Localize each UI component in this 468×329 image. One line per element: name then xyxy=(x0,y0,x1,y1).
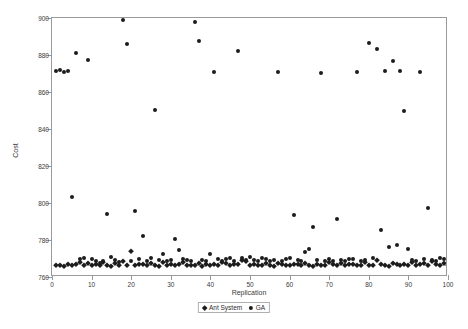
x-axis-title: Replication xyxy=(51,289,447,296)
data-point-ga xyxy=(105,212,109,216)
data-point-ga xyxy=(303,250,307,254)
data-point-ant-system xyxy=(156,263,161,268)
data-point-ga xyxy=(189,259,193,263)
data-point-ga xyxy=(204,259,208,263)
data-point-ga xyxy=(288,256,292,260)
scatter-chart-figure: Cost 760780800820840860880900 0102030405… xyxy=(0,0,468,329)
data-point-ga xyxy=(256,259,260,263)
data-point-ant-system xyxy=(374,257,379,262)
data-point-ga xyxy=(331,259,335,263)
data-point-ga xyxy=(272,258,276,262)
data-point-ga xyxy=(177,248,181,252)
data-point-ga xyxy=(117,260,121,264)
x-tick-mark xyxy=(290,275,291,280)
data-point-ga xyxy=(101,259,105,263)
data-point-ga xyxy=(74,51,78,55)
x-tick-label: 10 xyxy=(88,281,95,288)
data-point-ga xyxy=(319,71,323,75)
data-point-ant-system xyxy=(426,263,431,268)
x-tick-mark xyxy=(171,275,172,280)
data-point-ga xyxy=(193,20,197,24)
x-tick-label: 70 xyxy=(326,281,333,288)
data-point-ga xyxy=(391,59,395,63)
data-point-ga xyxy=(145,259,149,263)
data-point-ga xyxy=(86,58,90,62)
data-point-ant-system xyxy=(236,261,241,266)
data-point-ga xyxy=(414,259,418,263)
x-tick-mark xyxy=(131,275,132,280)
data-point-ga xyxy=(387,245,391,249)
legend-label: GA xyxy=(256,304,265,311)
data-point-ant-system xyxy=(445,262,446,267)
data-point-ga xyxy=(129,259,133,263)
x-tick-mark xyxy=(329,275,330,280)
data-point-ga xyxy=(398,69,402,73)
data-point-ga xyxy=(355,70,359,74)
data-point-ga xyxy=(418,70,422,74)
x-tick-label: 100 xyxy=(443,281,454,288)
data-point-ga xyxy=(161,252,165,256)
data-point-ga xyxy=(375,47,379,51)
data-point-ga xyxy=(383,69,387,73)
x-tick-mark xyxy=(369,275,370,280)
data-point-ga xyxy=(335,217,339,221)
data-point-ga xyxy=(307,247,311,251)
x-tick-label: 0 xyxy=(50,281,54,288)
x-tick-mark xyxy=(92,275,93,280)
data-point-ga xyxy=(133,209,137,213)
data-point-ant-system xyxy=(129,248,134,253)
x-tick-label: 50 xyxy=(246,281,253,288)
data-point-ga xyxy=(315,258,319,262)
data-point-ga xyxy=(406,247,410,251)
legend-item-ga[interactable]: GA xyxy=(249,304,265,311)
x-tick-mark xyxy=(408,275,409,280)
legend-item-ant-system[interactable]: Ant System xyxy=(203,304,242,311)
x-tick-label: 30 xyxy=(167,281,174,288)
data-point-ga xyxy=(379,228,383,232)
x-tick-label: 20 xyxy=(128,281,135,288)
data-point-ga xyxy=(276,70,280,74)
x-tick-label: 60 xyxy=(286,281,293,288)
data-point-ga xyxy=(153,108,157,112)
y-tick-label: 760 xyxy=(38,274,49,281)
legend-label: Ant System xyxy=(209,304,242,311)
x-tick-mark xyxy=(250,275,251,280)
data-point-ga xyxy=(351,257,355,261)
data-point-ga xyxy=(395,243,399,247)
y-tick-label: 880 xyxy=(38,52,49,59)
data-points-layer xyxy=(52,18,446,275)
data-point-ga xyxy=(402,109,406,113)
data-point-ga xyxy=(371,256,375,260)
data-point-ga xyxy=(292,213,296,217)
y-tick-label: 900 xyxy=(38,15,49,22)
data-point-ga xyxy=(121,18,125,22)
data-point-ga xyxy=(157,258,161,262)
diamond-marker-icon xyxy=(202,305,207,310)
x-tick-label: 90 xyxy=(405,281,412,288)
x-tick-mark xyxy=(52,275,53,280)
data-point-ga xyxy=(70,195,74,199)
data-point-ga xyxy=(422,257,426,261)
chart-legend: Ant SystemGA xyxy=(198,302,270,313)
y-tick-label: 780 xyxy=(38,237,49,244)
data-point-ant-system xyxy=(125,262,130,267)
y-tick-label: 800 xyxy=(38,200,49,207)
circle-marker-icon xyxy=(249,306,253,310)
data-point-ga xyxy=(149,256,153,260)
data-point-ga xyxy=(367,41,371,45)
data-point-ga xyxy=(169,258,173,262)
x-tick-mark xyxy=(210,275,211,280)
data-point-ga xyxy=(66,69,70,73)
data-point-ga xyxy=(232,259,236,263)
data-point-ga xyxy=(426,206,430,210)
y-tick-label: 860 xyxy=(38,89,49,96)
data-point-ga xyxy=(141,234,145,238)
data-point-ga xyxy=(208,252,212,256)
x-tick-label: 40 xyxy=(207,281,214,288)
x-tick-label: 80 xyxy=(365,281,372,288)
data-point-ga xyxy=(212,70,216,74)
data-point-ga xyxy=(236,49,240,53)
data-point-ga xyxy=(244,258,248,262)
data-point-ga xyxy=(299,259,303,263)
data-point-ga xyxy=(363,258,367,262)
